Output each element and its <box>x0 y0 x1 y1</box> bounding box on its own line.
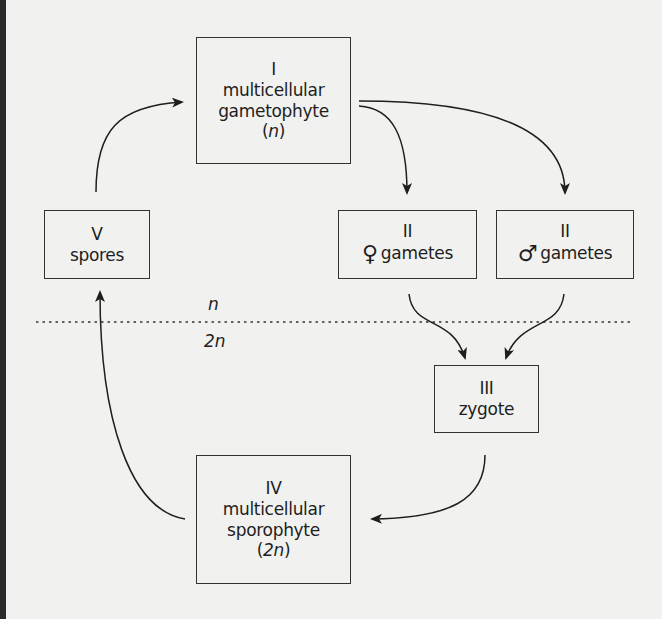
node-male-gametes: II ♂gametes <box>496 210 634 279</box>
node-ploidy: (n) <box>262 121 285 142</box>
node-roman-numeral: I <box>271 59 276 80</box>
node-roman-numeral: II <box>560 221 569 242</box>
node-label-line: gametophyte <box>218 101 329 122</box>
node-zygote: III zygote <box>434 365 539 433</box>
haploid-label: n <box>208 294 219 314</box>
male-symbol-icon: ♂ <box>518 241 537 266</box>
arrow-male-gametes-to-zygote <box>506 294 564 358</box>
node-label-line: multicellular <box>223 499 325 520</box>
arrow-gametophyte-to-female-gametes <box>359 106 407 193</box>
arrow-spores-to-gametophyte <box>96 102 182 192</box>
node-female-gametes: II ♀gametes <box>338 210 477 279</box>
arrow-female-gametes-to-zygote <box>409 294 465 358</box>
arrow-gametophyte-to-male-gametes <box>359 101 565 193</box>
node-roman-numeral: IV <box>265 478 281 499</box>
node-label-line: multicellular <box>223 80 325 101</box>
node-label: gametes <box>381 243 453 263</box>
node-roman-numeral: II <box>403 221 412 242</box>
female-symbol-icon: ♀ <box>362 241 378 266</box>
diploid-label: 2n <box>204 331 226 351</box>
arrow-zygote-to-sporophyte <box>372 455 485 519</box>
node-roman-numeral: III <box>479 378 493 399</box>
node-label: gametes <box>540 243 612 263</box>
arrow-sporophyte-to-spores <box>100 292 185 519</box>
node-label: zygote <box>459 399 515 420</box>
node-spores: V spores <box>44 210 150 279</box>
node-ploidy: (2n) <box>257 540 291 561</box>
node-multicellular-sporophyte: IV multicellular sporophyte (2n) <box>196 455 351 584</box>
node-roman-numeral: V <box>91 224 102 245</box>
node-multicellular-gametophyte: I multicellular gametophyte (n) <box>196 37 351 164</box>
node-label-line: sporophyte <box>227 520 320 541</box>
node-label: spores <box>70 245 124 266</box>
